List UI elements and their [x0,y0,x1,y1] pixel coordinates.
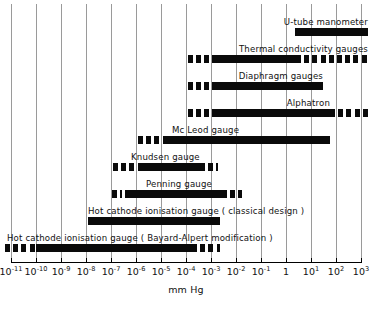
bar-label: U-tube manometer [284,17,368,27]
tick-label-mantissa: 10 [328,266,340,277]
bar-dash-low [138,136,143,144]
bar-dash-low [204,109,209,117]
bar-dash-high [230,190,235,198]
pressure-range-chart: U-tube manometerThermal conductivity gau… [0,0,389,309]
bar-segment-solid [125,190,222,198]
bar-dash-low [188,55,193,63]
bar-dash-low [188,109,193,117]
bar-dash-high [321,55,326,63]
tick-label-mantissa: 10 [252,266,264,277]
tick-label-exponent: -11 [12,265,23,273]
axis-tick [361,258,362,263]
tick-label-exponent: -1 [264,265,271,273]
bar-segment-solid [88,217,220,225]
bar-segment-solid [36,244,192,252]
tick-label-mantissa: 10 [177,266,189,277]
tick-label-mantissa: 10 [77,266,89,277]
bar-dash-high [192,244,197,252]
tick-label-exponent: 3 [365,265,369,273]
bar-segment-solid [212,82,323,90]
bar-row: Alphatron [0,95,389,117]
bar-label: Hot cathode ionisation gauge ( classical… [88,206,304,216]
bar-dash-low [13,244,18,252]
tick-label-mantissa: 10 [25,266,37,277]
bar-label: Hot cathode ionisation gauge ( Bayard-Al… [7,233,273,243]
bar-row: Thermal conductivity gauges [0,41,389,63]
tick-label: 103 [353,266,369,277]
axis-tick [236,258,237,263]
bar-dash-high [346,109,351,117]
bar-row: Penning gauge [0,176,389,198]
bar-segment-solid [163,136,330,144]
bar-dash-low [188,82,193,90]
bar-dash-high [345,55,350,63]
bar-row: Mc Leod gauge [0,122,389,144]
bar-segment-solid [138,163,205,171]
bar-dash-low [112,190,117,198]
tick-label: 10-11 [0,266,22,277]
axis-tick [286,258,287,263]
axis-tick [161,258,162,263]
tick-label-exponent: -2 [239,265,246,273]
bar-row: Hot cathode ionisation gauge ( Bayard-Al… [0,230,389,252]
tick-label: 10-2 [227,266,246,277]
tick-label-mantissa: 10 [202,266,214,277]
bar-dash-low [21,244,26,252]
tick-label-mantissa: 1 [283,266,289,277]
bar-dash-high [200,244,205,252]
tick-label-exponent: -7 [114,265,121,273]
bar-dash-high [362,55,367,63]
tick-label-exponent: -9 [64,265,71,273]
tick-label-exponent: 1 [315,265,319,273]
bar-dash-high [208,244,213,252]
tick-label: 102 [328,266,344,277]
tick-label-mantissa: 10 [303,266,315,277]
tick-label-mantissa: 10 [52,266,64,277]
bar-dash-high [337,55,342,63]
bar-dash-low [120,190,122,198]
bar-label: Diaphragm gauges [239,71,323,81]
bar-dash-low [113,163,118,171]
bar-dash-low [121,163,126,171]
x-axis-title: mm Hg [168,284,204,295]
tick-label: 10-10 [25,266,48,277]
bar-label: Alphatron [287,98,330,108]
bar-dash-low [204,82,209,90]
tick-label: 101 [303,266,319,277]
bar-dash-high [338,109,343,117]
tick-label: 10-7 [102,266,121,277]
axis-tick [136,258,137,263]
plot-area: U-tube manometerThermal conductivity gau… [0,0,389,262]
bar-dash-low [5,244,10,252]
tick-label-mantissa: 10 [0,266,12,277]
bar-row: Diaphragm gauges [0,68,389,90]
bar-dash-high [216,163,218,171]
tick-label-exponent: -5 [164,265,171,273]
bar-row: Hot cathode ionisation gauge ( classical… [0,203,389,225]
bar-label: Thermal conductivity gauges [239,44,368,54]
bar-dash-high [238,190,242,198]
bar-segment-solid [212,55,296,63]
tick-label: 10-9 [52,266,71,277]
tick-label: 10-5 [152,266,171,277]
bar-row: U-tube manometer [0,14,389,36]
bar-dash-high [363,109,368,117]
tick-label: 10-3 [202,266,221,277]
axis-tick [36,258,37,263]
bar-dash-low [204,55,209,63]
bar-dash-low [154,136,159,144]
bar-label: Knudsen gauge [131,152,200,162]
tick-label-exponent: -4 [189,265,196,273]
bar-dash-high [217,244,220,252]
bar-dash-low [196,82,201,90]
tick-label-mantissa: 10 [227,266,239,277]
bar-dash-high [329,55,334,63]
tick-label-exponent: -10 [37,265,48,273]
axis-tick [311,258,312,263]
tick-label-mantissa: 10 [127,266,139,277]
bar-dash-high [222,190,227,198]
bar-dash-high [304,55,309,63]
axis-tick [61,258,62,263]
bar-segment-solid [295,28,368,36]
tick-label: 10-6 [127,266,146,277]
